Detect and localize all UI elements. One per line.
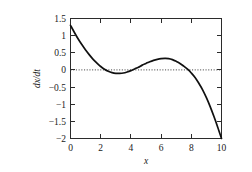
y-tick-label: −1 bbox=[56, 100, 66, 110]
x-tick-label: 4 bbox=[129, 143, 134, 153]
y-tick-label: −2 bbox=[56, 134, 66, 144]
x-tick-label: 10 bbox=[217, 143, 227, 153]
x-tick-label: 0 bbox=[68, 143, 73, 153]
y-tick-label: 1 bbox=[61, 31, 66, 41]
x-tick-label: 6 bbox=[159, 143, 164, 153]
figure-container: 1.5 1 0.5 0 −0.5 −1 −1.5 −2 0 2 4 6 8 10… bbox=[0, 0, 252, 172]
y-axis-title: dx/dt bbox=[32, 69, 42, 88]
y-tick-label: 1.5 bbox=[54, 14, 66, 24]
x-tick-label: 2 bbox=[98, 143, 103, 153]
y-tick-label: 0.5 bbox=[54, 48, 66, 58]
x-tick-label: 8 bbox=[189, 143, 194, 153]
chart-svg: 1.5 1 0.5 0 −0.5 −1 −1.5 −2 0 2 4 6 8 10… bbox=[0, 0, 252, 172]
y-tick-label: −0.5 bbox=[49, 83, 66, 93]
y-tick-label: 0 bbox=[61, 65, 66, 75]
y-tick-label: −1.5 bbox=[49, 117, 66, 127]
x-axis-title: x bbox=[143, 156, 149, 166]
